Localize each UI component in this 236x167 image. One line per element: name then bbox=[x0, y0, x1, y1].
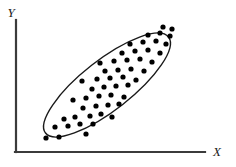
data-point bbox=[83, 131, 88, 136]
data-point bbox=[140, 39, 145, 44]
data-point bbox=[79, 78, 84, 83]
data-point bbox=[119, 50, 124, 55]
data-point bbox=[153, 38, 158, 43]
data-point bbox=[111, 58, 116, 63]
data-point bbox=[93, 103, 98, 108]
data-point bbox=[94, 76, 99, 81]
data-point bbox=[149, 59, 154, 64]
data-point bbox=[108, 92, 113, 97]
data-point bbox=[157, 30, 162, 35]
data-point bbox=[124, 57, 129, 62]
data-point bbox=[87, 113, 92, 118]
data-point bbox=[80, 105, 85, 110]
data-point bbox=[105, 102, 110, 107]
data-point bbox=[109, 114, 114, 119]
data-point bbox=[160, 24, 165, 29]
data-point bbox=[169, 26, 174, 31]
data-point bbox=[97, 60, 102, 65]
data-point bbox=[96, 93, 101, 98]
data-point bbox=[89, 86, 94, 91]
data-point bbox=[163, 41, 168, 46]
data-point bbox=[107, 75, 112, 80]
data-point bbox=[145, 47, 150, 52]
data-point bbox=[116, 101, 121, 106]
data-point bbox=[121, 94, 126, 99]
data-point bbox=[113, 83, 118, 88]
data-point bbox=[43, 135, 48, 140]
data-point bbox=[70, 97, 75, 102]
data-point bbox=[125, 82, 130, 87]
data-point bbox=[157, 50, 162, 55]
x-axis-label: X bbox=[212, 144, 222, 159]
data-point bbox=[145, 32, 150, 37]
y-axis-label: Y bbox=[7, 5, 16, 20]
data-point bbox=[102, 68, 107, 73]
data-point bbox=[90, 121, 95, 126]
data-point bbox=[120, 74, 125, 79]
data-point bbox=[127, 41, 132, 46]
data-point bbox=[167, 33, 172, 38]
data-point bbox=[128, 66, 133, 71]
data-point bbox=[72, 114, 77, 119]
data-point bbox=[56, 134, 61, 139]
correlation-ellipse bbox=[30, 17, 184, 152]
data-point bbox=[101, 84, 106, 89]
axes-group bbox=[15, 20, 205, 152]
data-point bbox=[52, 124, 57, 129]
data-point bbox=[83, 95, 88, 100]
data-point bbox=[132, 48, 137, 53]
data-point bbox=[133, 77, 138, 82]
data-point bbox=[141, 68, 146, 73]
scatter-plot-svg: Y X bbox=[0, 0, 236, 167]
data-point bbox=[137, 56, 142, 61]
data-point bbox=[61, 116, 66, 121]
scatter-plot-figure: Y X bbox=[0, 0, 236, 167]
data-point bbox=[77, 121, 82, 126]
data-point-group bbox=[43, 24, 174, 140]
data-point bbox=[65, 123, 70, 128]
data-point bbox=[115, 67, 120, 72]
data-point bbox=[98, 111, 103, 116]
